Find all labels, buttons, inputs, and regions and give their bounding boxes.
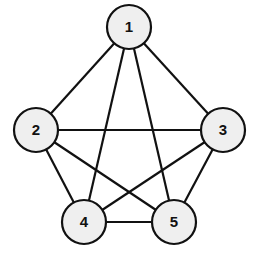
edge-1-5 [129,27,174,222]
graph-diagram: 12345 [0,0,257,257]
nodes-group: 12345 [14,5,245,244]
node-3: 3 [201,108,245,152]
node-label: 3 [219,121,227,138]
node-2: 2 [14,108,58,152]
node-4: 4 [62,200,106,244]
edge-1-4 [84,27,129,222]
node-5: 5 [152,200,196,244]
node-1: 1 [107,5,151,49]
node-label: 2 [32,121,40,138]
edges-group [36,27,223,222]
graph-svg: 12345 [0,0,257,257]
node-label: 4 [80,213,89,230]
node-label: 1 [125,18,133,35]
node-label: 5 [170,213,178,230]
